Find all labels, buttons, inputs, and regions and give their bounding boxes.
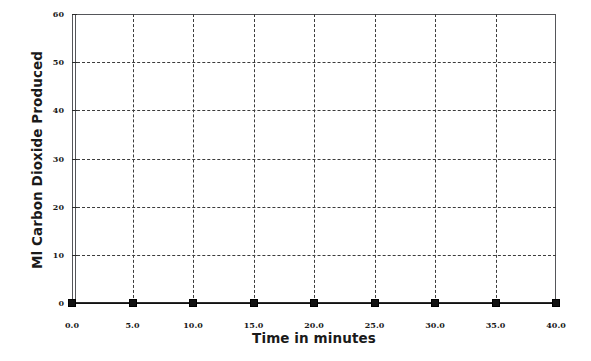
y-axis-tick-label: 20 [34,202,64,212]
data-point-marker [129,299,137,307]
gridline-horizontal [72,110,556,111]
y-axis-tick [72,110,77,111]
data-point-marker [250,299,258,307]
data-point-marker [371,299,379,307]
y-axis-tick-label: 50 [34,57,64,67]
data-point-marker [68,299,76,307]
gridline-horizontal [72,255,556,256]
y-axis-tick-label: 0 [34,298,64,308]
y-axis-tick [72,255,77,256]
y-axis-tick [72,159,77,160]
x-axis-tick-label: 10.0 [171,320,215,330]
x-axis-tick-label: 40.0 [534,320,578,330]
gridline-horizontal [72,62,556,63]
x-axis-tick-label: 30.0 [413,320,457,330]
y-axis-tick-label: 40 [34,105,64,115]
chart-figure: Ml Carbon Dioxide Produced Time in minut… [0,0,591,361]
data-point-marker [189,299,197,307]
x-axis-title: Time in minutes [72,330,556,346]
gridline-horizontal [72,207,556,208]
x-axis-tick-label: 15.0 [232,320,276,330]
x-axis-tick-label: 20.0 [292,320,336,330]
gridline-horizontal [72,159,556,160]
data-point-marker [552,299,560,307]
data-point-marker [431,299,439,307]
x-axis-tick-label: 0.0 [50,320,94,330]
y-axis-tick [72,62,77,63]
x-axis-tick-label: 5.0 [111,320,155,330]
y-axis-tick-label: 60 [34,9,64,19]
y-axis-tick-label: 10 [34,250,64,260]
data-point-marker [310,299,318,307]
data-point-marker [492,299,500,307]
plot-area: 0.05.010.015.020.025.030.035.040.0 01020… [72,14,556,303]
y-axis-tick-label: 30 [34,154,64,164]
y-axis-tick [72,207,77,208]
x-axis-tick-label: 35.0 [474,320,518,330]
x-axis-tick-label: 25.0 [353,320,397,330]
y-axis-tick [72,14,77,15]
